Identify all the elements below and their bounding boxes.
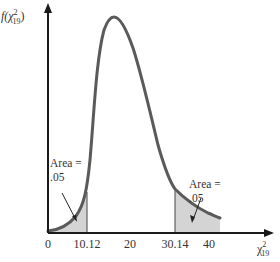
y-axis-arrow-icon (44, 3, 52, 13)
left-area-annotation-line1: Area = (50, 157, 82, 169)
x-tick-20: 20 (124, 237, 136, 251)
x-tick-30-14: 30.14 (162, 237, 189, 251)
x-tick-10-12: 10.12 (74, 237, 101, 251)
x-tick-40: 40 (203, 237, 215, 251)
x-axis-label: χ219 (256, 240, 269, 258)
left-tail-shaded-region (48, 192, 87, 233)
x-tick-0: 0 (45, 237, 51, 251)
chi-square-chart: f(χ219) χ219 0 10.12 20 30.14 40 Area = … (0, 0, 280, 262)
y-axis-label: f(χ219) (1, 8, 25, 26)
right-area-annotation-line2: .05 (189, 192, 204, 204)
x-axis-arrow-icon (264, 229, 274, 237)
right-area-annotation-line1: Area = (189, 178, 221, 190)
left-area-annotation-line2: .05 (50, 171, 65, 183)
